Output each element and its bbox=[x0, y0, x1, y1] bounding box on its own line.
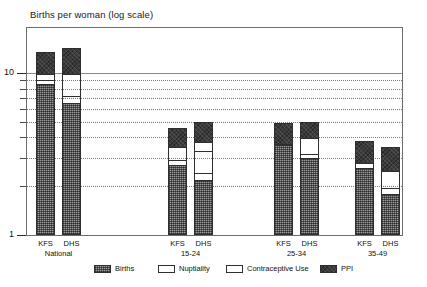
bar-segment-births bbox=[37, 84, 54, 234]
x-tick-label-15-24-DHS: DHS bbox=[184, 239, 224, 248]
plot-area bbox=[26, 27, 403, 236]
x-tick-label-National-DHS: DHS bbox=[52, 239, 92, 248]
y-tick-label-10: 10 bbox=[0, 67, 14, 77]
bar-segment-ppi bbox=[195, 123, 212, 142]
legend-label-ppi: PPI bbox=[341, 264, 353, 273]
y-tick-9 bbox=[20, 80, 26, 81]
bar-National-KFS bbox=[36, 52, 55, 235]
bar-15-24-DHS bbox=[194, 122, 213, 235]
x-tick-label-25-34-DHS: DHS bbox=[290, 239, 330, 248]
bar-segment-ppi bbox=[356, 142, 373, 163]
bar-25-34-DHS bbox=[300, 122, 319, 235]
legend-label-contraceptive: Contraceptive Use bbox=[247, 264, 309, 273]
y-tick-1 bbox=[17, 235, 26, 236]
bar-segment-contraceptive bbox=[301, 138, 318, 153]
bar-segment-ppi bbox=[169, 129, 186, 148]
bar-segment-ppi bbox=[63, 49, 80, 73]
bar-segment-nuptiality bbox=[63, 74, 80, 96]
y-tick-10 bbox=[17, 73, 26, 74]
bar-segment-ppi bbox=[382, 148, 399, 171]
legend-swatch-nuptiality bbox=[158, 265, 175, 273]
chart-title: Births per woman (log scale) bbox=[30, 9, 153, 20]
bar-35-49-KFS bbox=[355, 141, 374, 235]
x-group-label-35-49: 35-49 bbox=[343, 249, 413, 258]
legend-swatch-ppi bbox=[320, 265, 337, 273]
x-group-label-15-24: 15-24 bbox=[156, 249, 226, 258]
bar-segment-ppi bbox=[37, 53, 54, 74]
bar-25-34-KFS bbox=[274, 123, 293, 235]
legend-swatch-births bbox=[94, 265, 111, 273]
x-group-label-25-34: 25-34 bbox=[262, 249, 332, 258]
bar-National-DHS bbox=[62, 48, 81, 235]
bar-segment-births bbox=[169, 165, 186, 234]
legend-item-nuptiality: Nuptiality bbox=[158, 264, 210, 273]
bar-segment-ppi bbox=[275, 124, 292, 143]
x-tick-label-35-49-DHS: DHS bbox=[371, 239, 411, 248]
bar-35-49-DHS bbox=[381, 147, 400, 235]
bar-segment-births bbox=[382, 194, 399, 234]
bar-segment-births bbox=[275, 145, 292, 234]
bar-segment-contraceptive bbox=[382, 171, 399, 188]
legend-label-nuptiality: Nuptiality bbox=[179, 264, 210, 273]
y-tick-7 bbox=[20, 98, 26, 99]
legend-item-births: Births bbox=[94, 264, 134, 273]
bar-segment-births bbox=[356, 168, 373, 234]
bar-segment-nuptiality bbox=[195, 151, 212, 173]
bar-segment-contraceptive bbox=[195, 142, 212, 152]
y-tick-2 bbox=[20, 186, 26, 187]
chart-root: Births per woman (log scale) 110 KFSDHSK… bbox=[0, 0, 427, 287]
bar-segment-births bbox=[63, 103, 80, 234]
y-tick-label-1: 1 bbox=[0, 229, 14, 239]
chart-legend: BirthsNuptialityContraceptive UsePPI bbox=[0, 262, 427, 276]
bar-segment-contraceptive bbox=[63, 96, 80, 103]
x-group-label-National: National bbox=[24, 249, 94, 258]
bars-layer bbox=[27, 28, 402, 235]
y-tick-6 bbox=[20, 109, 26, 110]
bar-segment-births bbox=[195, 180, 212, 234]
legend-label-births: Births bbox=[115, 264, 134, 273]
y-tick-8 bbox=[20, 89, 26, 90]
legend-item-contraceptive: Contraceptive Use bbox=[226, 264, 309, 273]
y-tick-3 bbox=[20, 158, 26, 159]
legend-swatch-contraceptive bbox=[226, 265, 243, 273]
legend-item-ppi: PPI bbox=[320, 264, 353, 273]
bar-segment-nuptiality bbox=[169, 147, 186, 160]
bar-segment-births bbox=[301, 158, 318, 234]
y-tick-5 bbox=[20, 122, 26, 123]
bar-15-24-KFS bbox=[168, 128, 187, 235]
bar-segment-ppi bbox=[301, 123, 318, 138]
y-tick-4 bbox=[20, 137, 26, 138]
